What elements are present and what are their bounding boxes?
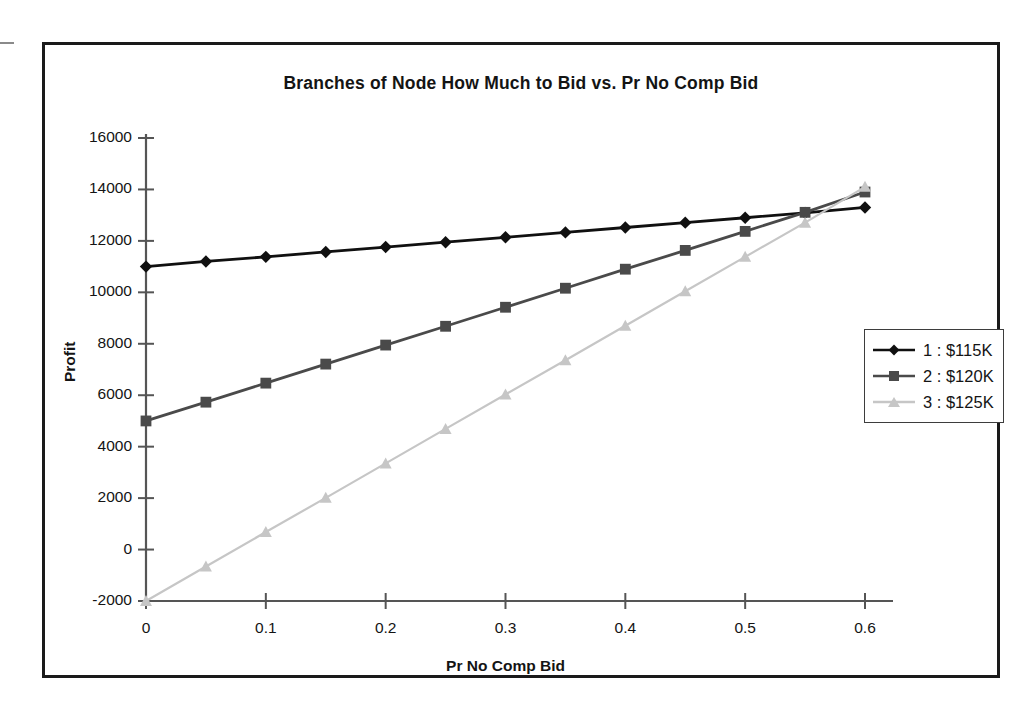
data-point-marker [559,354,571,365]
scan-artifact-left-mark [0,42,14,44]
data-point-marker [859,201,871,213]
y-tick-label: 16000 [50,128,132,146]
data-point-marker [620,264,631,275]
x-tick-label: 0 [106,619,186,637]
data-point-marker [679,285,691,296]
data-point-marker [141,416,152,427]
data-point-marker [380,457,392,468]
data-point-marker [439,236,451,248]
data-point-marker [140,260,152,272]
y-tick-label: 12000 [50,231,132,249]
data-point-marker [200,561,212,572]
data-point-marker [260,526,272,537]
chart-legend: 1 : $115K 2 : $120K 3 : $125K [864,329,1004,423]
data-point-marker [379,241,391,253]
series-group [140,181,871,606]
data-point-marker [440,321,451,332]
data-point-marker [619,221,631,233]
data-point-marker [499,231,511,243]
axes-group [138,134,893,609]
data-point-marker [859,181,871,192]
chart-frame: Branches of Node How Much to Bid vs. Pr … [42,42,1000,678]
data-point-marker [739,251,751,262]
y-tick-label: -2000 [50,591,132,609]
x-tick-label: 0.4 [585,619,665,637]
data-point-marker [320,359,331,370]
data-point-marker [560,283,571,294]
y-tick-label: 4000 [50,437,132,455]
legend-label-series-2: 2 : $120K [923,367,994,386]
x-tick-label: 0.2 [346,619,426,637]
data-point-marker [260,251,272,263]
data-point-marker [201,397,212,408]
plot-area [45,45,1003,681]
data-point-marker [559,226,571,238]
data-point-marker [800,207,811,218]
data-point-marker [380,340,391,351]
legend-item[interactable]: 3 : $125K [872,389,994,415]
series-1 [140,201,871,273]
x-tick-label: 0.3 [466,619,546,637]
legend-label-series-1: 1 : $115K [923,341,992,360]
x-tick-label: 0.1 [226,619,306,637]
data-point-marker [680,245,691,256]
data-point-marker [320,492,332,503]
y-tick-label: 10000 [50,282,132,300]
legend-swatch-series-1 [872,341,916,359]
data-point-marker [799,217,811,228]
data-point-marker [200,255,212,267]
data-point-marker [440,423,452,434]
data-point-marker [679,216,691,228]
data-point-marker [740,226,751,237]
y-tick-label: 0 [50,540,132,558]
y-tick-label: 14000 [50,179,132,197]
data-point-marker [739,212,751,224]
data-point-marker [500,388,512,399]
y-tick-label: 6000 [50,385,132,403]
legend-label-series-3: 3 : $125K [923,393,994,412]
legend-swatch-series-3 [872,393,916,411]
x-tick-label: 0.5 [705,619,785,637]
y-tick-label: 8000 [50,334,132,352]
data-point-marker [320,246,332,258]
legend-item[interactable]: 1 : $115K [872,337,994,363]
legend-item[interactable]: 2 : $120K [872,363,994,389]
y-tick-label: 2000 [50,488,132,506]
data-point-marker [619,320,631,331]
series-3 [140,181,871,606]
x-tick-label: 0.6 [825,619,905,637]
x-axis-title: Pr No Comp Bid [106,657,905,675]
data-point-marker [260,378,271,389]
legend-swatch-series-2 [872,367,916,385]
data-point-marker [500,302,511,313]
